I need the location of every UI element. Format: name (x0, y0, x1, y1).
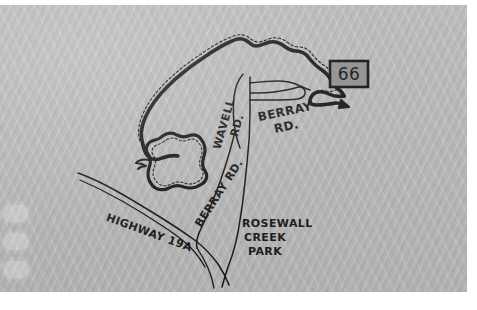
ghost-control-2[interactable] (4, 233, 28, 250)
map-paper-sheet: 66 WAVELL RD. BERRAY RD. BERRAY RD. HIGH… (0, 5, 467, 292)
lagoon-inner-dashed-shore (152, 138, 203, 186)
label-rosewall-creek-park-line-1: ROSEWALL (242, 217, 313, 230)
shoreline-tip-point (339, 100, 349, 108)
ghost-control-1[interactable] (4, 205, 28, 222)
lagoon-inlet (136, 160, 149, 169)
route-66-shield[interactable]: 66 (330, 61, 368, 87)
label-rosewall-creek-park: ROSEWALL CREEK PARK (242, 217, 317, 258)
hand-drawn-map-drawing: 66 WAVELL RD. BERRAY RD. BERRAY RD. HIGH… (0, 5, 467, 292)
label-berray-rd-north: BERRAY RD. (257, 98, 321, 139)
label-berray-rd-south-line-1: BERRAY RD. (192, 157, 245, 229)
shoreline-group (139, 35, 349, 160)
lagoon-group (136, 133, 207, 189)
road-berray-rd-east-branch (250, 81, 310, 90)
label-berray-rd-south: BERRAY RD. (192, 157, 245, 229)
label-rosewall-creek-park-line-3: PARK (248, 245, 282, 258)
road-park-connector (197, 248, 214, 288)
ghost-control-3[interactable] (4, 261, 28, 278)
label-rosewall-creek-park-line-2: CREEK (244, 231, 286, 244)
route-66-shield-number: 66 (338, 64, 361, 84)
map-labels-group: WAVELL RD. BERRAY RD. BERRAY RD. HIGHWAY… (104, 93, 321, 258)
road-berray-rd-loop (250, 87, 305, 100)
screenshot-root: 66 WAVELL RD. BERRAY RD. BERRAY RD. HIGH… (0, 0, 477, 310)
edge-control-strip (4, 205, 30, 278)
